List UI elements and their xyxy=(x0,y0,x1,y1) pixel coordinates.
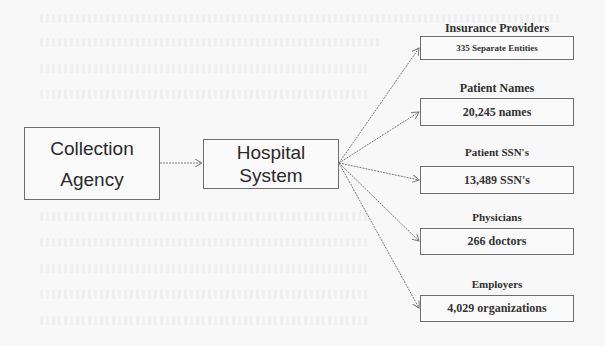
diagram-canvas: Collection Agency Hospital System Insura… xyxy=(0,0,605,346)
employers-box: 4,029 organizations xyxy=(420,295,574,322)
collection-agency-line2: Agency xyxy=(50,168,133,191)
insurance-providers-value: 335 Separate Entities xyxy=(456,43,538,53)
arrow-to-insurance-providers xyxy=(339,48,419,163)
collection-agency-line1: Collection xyxy=(50,137,133,160)
hospital-system-line1: Hospital xyxy=(237,141,306,164)
insurance-providers-box: 335 Separate Entities xyxy=(420,36,574,60)
patient-names-value: 20,245 names xyxy=(463,105,532,120)
arrow-to-physicians xyxy=(339,163,419,241)
hospital-system-box: Hospital System xyxy=(203,139,339,189)
collection-agency-box: Collection Agency xyxy=(24,127,160,200)
physicians-value: 266 doctors xyxy=(468,234,527,249)
arrow-to-patient-names xyxy=(339,112,419,163)
patient-ssns-value: 13,489 SSN's xyxy=(464,173,530,188)
insurance-providers-label: Insurance Providers xyxy=(420,21,574,36)
arrow-to-employers xyxy=(339,163,419,308)
employers-label: Employers xyxy=(420,278,574,290)
patient-names-label: Patient Names xyxy=(420,81,574,96)
patient-ssns-label: Patient SSN's xyxy=(420,146,574,158)
physicians-box: 266 doctors xyxy=(420,228,574,255)
employers-value: 4,029 organizations xyxy=(447,301,546,316)
physicians-label: Physicians xyxy=(420,211,574,223)
hospital-system-line2: System xyxy=(237,164,306,187)
arrow-to-patient-ssns xyxy=(339,163,419,180)
patient-ssns-box: 13,489 SSN's xyxy=(420,166,574,194)
patient-names-box: 20,245 names xyxy=(420,98,574,126)
